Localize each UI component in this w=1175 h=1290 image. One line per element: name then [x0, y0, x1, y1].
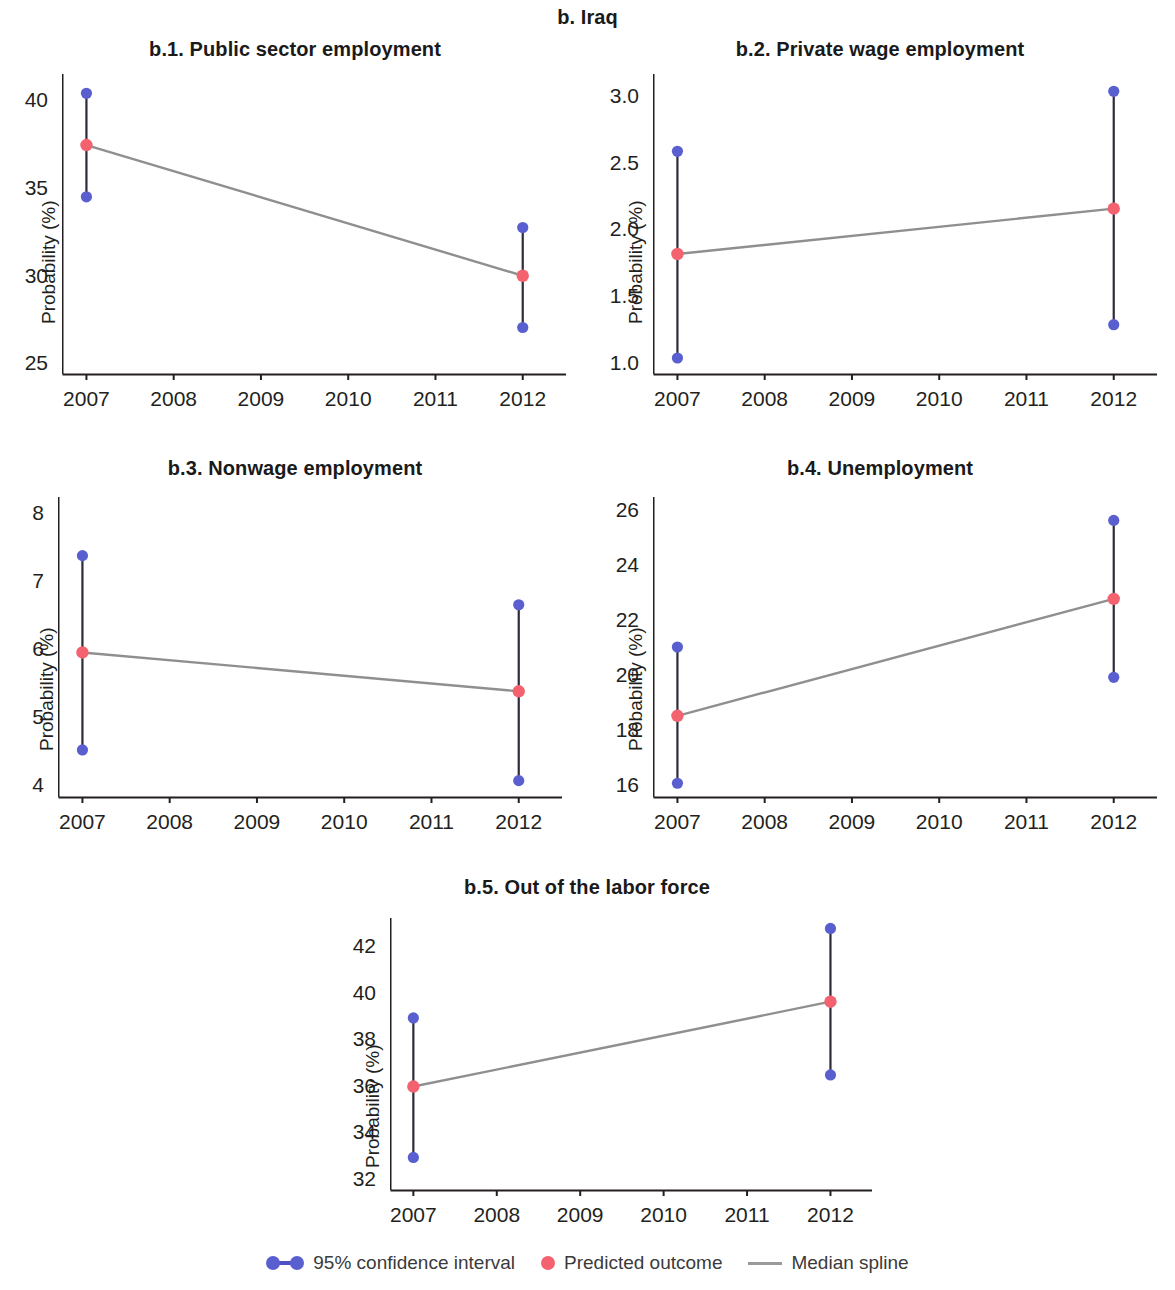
b3-y-axis-label: Probability (%): [36, 627, 58, 751]
b2-ci-upper-point: [1108, 86, 1119, 97]
figure-root: b. Iraq b.1. Public sector employment 25…: [0, 0, 1175, 1290]
panel-b3-plot: 45678200720082009201020112012Probability…: [58, 497, 558, 857]
panel-b1-plot: 25303540200720082009201020112012Probabil…: [62, 74, 562, 434]
panel-b3-title: b.3. Nonwage employment: [0, 457, 590, 480]
b1-predicted-point: [517, 270, 529, 282]
b2-plot-area: [653, 74, 1159, 380]
b3-ytick-label: 7: [0, 569, 44, 593]
b1-xtick-label: 2010: [308, 387, 388, 411]
legend-label-predicted-outcome: Predicted outcome: [564, 1252, 722, 1274]
b4-xtick-label: 2012: [1074, 810, 1154, 834]
b1-ci-upper-point: [517, 222, 528, 233]
b4-ci-upper-point: [1108, 515, 1119, 526]
b5-xtick-label: 2007: [373, 1203, 453, 1227]
b5-predicted-point: [824, 995, 836, 1007]
b1-predicted-point: [80, 139, 92, 151]
b4-ci-lower-point: [672, 778, 683, 789]
legend-label-confidence-interval: 95% confidence interval: [313, 1252, 515, 1274]
b2-ci-lower-point: [1108, 319, 1119, 330]
b4-predicted-point: [1108, 593, 1120, 605]
b3-plot-area: [58, 497, 564, 803]
b2-xtick-label: 2012: [1074, 387, 1154, 411]
ci-dumbbell-marker-icon: [266, 1256, 304, 1270]
b5-ci-upper-point: [408, 1012, 419, 1023]
b5-xtick-label: 2009: [540, 1203, 620, 1227]
b4-y-axis-label: Probability (%): [625, 627, 647, 751]
b2-ytick-label: 3.0: [569, 84, 639, 108]
b3-ytick-label: 4: [0, 773, 44, 797]
b4-xtick-label: 2011: [986, 810, 1066, 834]
b3-ci-upper-point: [513, 599, 524, 610]
b5-xtick-label: 2008: [457, 1203, 537, 1227]
gray-line-marker-icon: [748, 1262, 782, 1265]
b5-predicted-point: [407, 1080, 419, 1092]
b3-ci-lower-point: [77, 744, 88, 755]
b1-ci-lower-point: [81, 191, 92, 202]
b5-ytick-label: 40: [306, 981, 376, 1005]
b1-ci-lower-point: [517, 322, 528, 333]
panel-b5: b.5. Out of the labor force 323436384042…: [292, 876, 882, 1266]
b2-predicted-point: [1108, 202, 1120, 214]
b4-xtick-label: 2007: [637, 810, 717, 834]
legend: 95% confidence interval Predicted outcom…: [0, 1252, 1175, 1274]
b2-ytick-label: 1.0: [569, 351, 639, 375]
b2-xtick-label: 2010: [899, 387, 979, 411]
b3-predicted-point: [513, 685, 525, 697]
b5-median-spline: [413, 1002, 830, 1087]
figure-title: b. Iraq: [0, 6, 1175, 29]
panel-b2-title: b.2. Private wage employment: [585, 38, 1175, 61]
b5-ytick-label: 42: [306, 934, 376, 958]
b3-median-spline: [82, 652, 518, 691]
b2-ci-lower-point: [672, 352, 683, 363]
b1-ci-upper-point: [81, 88, 92, 99]
b4-predicted-point: [671, 710, 683, 722]
b1-xtick-label: 2009: [221, 387, 301, 411]
b5-plot-area: [390, 918, 874, 1196]
b4-xtick-label: 2009: [812, 810, 892, 834]
b3-ci-upper-point: [77, 550, 88, 561]
legend-item-predicted-outcome: Predicted outcome: [541, 1252, 722, 1274]
b1-median-spline: [86, 145, 522, 276]
legend-label-median-spline: Median spline: [791, 1252, 908, 1274]
b5-y-axis-label: Probability (%): [362, 1044, 384, 1168]
panel-b2: b.2. Private wage employment 1.01.52.02.…: [585, 38, 1175, 428]
b1-plot-area: [62, 74, 568, 380]
b4-ci-lower-point: [1108, 672, 1119, 683]
b3-xtick-label: 2012: [479, 810, 559, 834]
b4-median-spline: [677, 599, 1113, 716]
b2-ytick-label: 2.5: [569, 151, 639, 175]
b4-ytick-label: 26: [569, 498, 639, 522]
b5-xtick-label: 2011: [707, 1203, 787, 1227]
b5-ci-lower-point: [408, 1152, 419, 1163]
b5-xtick-label: 2012: [790, 1203, 870, 1227]
b4-ci-upper-point: [672, 641, 683, 652]
b1-xtick-label: 2008: [134, 387, 214, 411]
panel-b5-plot: 323436384042200720082009201020112012Prob…: [390, 918, 868, 1250]
b3-ytick-label: 8: [0, 501, 44, 525]
b2-xtick-label: 2011: [986, 387, 1066, 411]
b5-ci-lower-point: [825, 1069, 836, 1080]
b1-ytick-label: 40: [0, 88, 48, 112]
b1-xtick-label: 2011: [395, 387, 475, 411]
b1-ytick-label: 35: [0, 176, 48, 200]
legend-item-median-spline: Median spline: [748, 1252, 908, 1274]
b4-xtick-label: 2008: [725, 810, 805, 834]
panel-b4: b.4. Unemployment 1618202224262007200820…: [585, 457, 1175, 847]
b4-ytick-label: 24: [569, 553, 639, 577]
b1-y-axis-label: Probability (%): [38, 200, 60, 324]
panel-b4-title: b.4. Unemployment: [585, 457, 1175, 480]
b2-predicted-point: [671, 248, 683, 260]
b3-xtick-label: 2010: [304, 810, 384, 834]
b5-ytick-label: 32: [306, 1167, 376, 1191]
b2-xtick-label: 2008: [725, 387, 805, 411]
panel-b4-plot: 161820222426200720082009201020112012Prob…: [653, 497, 1153, 857]
b1-ytick-label: 25: [0, 351, 48, 375]
b5-ci-upper-point: [825, 923, 836, 934]
b2-y-axis-label: Probability (%): [625, 200, 647, 324]
b2-xtick-label: 2009: [812, 387, 892, 411]
b2-ci-upper-point: [672, 146, 683, 157]
b3-xtick-label: 2008: [130, 810, 210, 834]
legend-item-confidence-interval: 95% confidence interval: [266, 1252, 515, 1274]
b5-xtick-label: 2010: [624, 1203, 704, 1227]
panel-b3: b.3. Nonwage employment 4567820072008200…: [0, 457, 590, 847]
